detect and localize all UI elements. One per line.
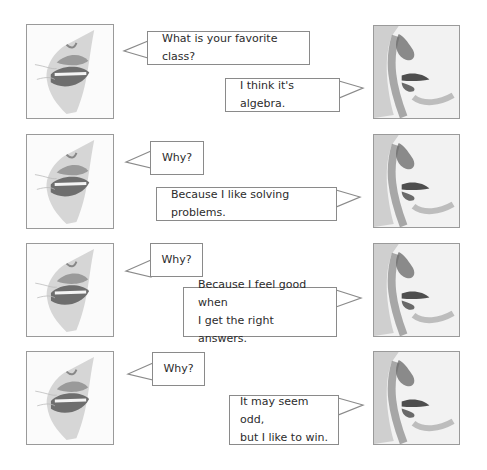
bubble-text: Why?: [163, 360, 193, 378]
speech-bubble-answer: Because I feel good when I get the right…: [183, 287, 337, 337]
speech-bubble-answer: I think it's algebra.: [225, 78, 340, 112]
bubble-tail-right: [335, 189, 361, 211]
right-speaker-image: [373, 351, 460, 445]
speech-bubble-question: What is your favorite class?: [147, 31, 310, 65]
bubble-text: It may seem odd, but I like to win.: [240, 393, 328, 447]
speech-bubble-question: Why?: [150, 141, 204, 175]
bubble-tail-left: [128, 362, 154, 384]
speech-bubble-answer: It may seem odd, but I like to win.: [229, 395, 339, 445]
profile-lips-icon: [374, 244, 459, 336]
bubble-tail-left: [126, 150, 152, 172]
grinning-mouth-icon: [27, 244, 113, 336]
speech-bubble-question: Why?: [152, 352, 205, 386]
bubble-text: Why?: [162, 149, 192, 167]
bubble-text: I think it's algebra.: [240, 77, 325, 113]
profile-lips-icon: [374, 352, 459, 444]
bubble-text: Because I like solving problems.: [171, 186, 322, 222]
right-speaker-image: [373, 134, 460, 228]
profile-lips-icon: [374, 135, 459, 227]
profile-lips-icon: [374, 26, 459, 118]
left-speaker-image: [26, 243, 114, 337]
speech-bubble-question: Why?: [150, 243, 203, 277]
grinning-mouth-icon: [27, 135, 113, 228]
bubble-text: Why?: [161, 251, 191, 269]
grinning-mouth-icon: [27, 352, 113, 444]
left-speaker-image: [26, 351, 114, 445]
bubble-tail-left: [126, 259, 152, 281]
right-speaker-image: [373, 243, 460, 337]
grinning-mouth-icon: [27, 25, 113, 118]
bubble-tail-right: [337, 397, 364, 419]
bubble-tail-left: [124, 40, 149, 62]
bubble-text: What is your favorite class?: [162, 30, 295, 66]
speech-bubble-answer: Because I like solving problems.: [156, 187, 337, 221]
bubble-tail-right: [335, 289, 362, 311]
bubble-tail-right: [338, 80, 364, 102]
right-speaker-image: [373, 25, 460, 119]
left-speaker-image: [26, 24, 114, 119]
bubble-text: Because I feel good when I get the right…: [198, 276, 322, 348]
left-speaker-image: [26, 134, 114, 229]
